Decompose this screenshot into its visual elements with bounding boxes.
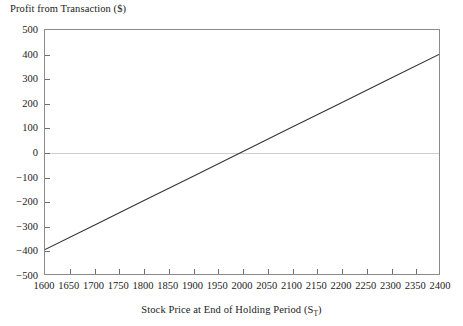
profit-line-series <box>45 30 439 274</box>
y-axis-tick-label: 0 <box>4 147 38 158</box>
y-axis-tick-label: −300 <box>4 220 38 231</box>
y-axis-tick-label: 200 <box>4 97 38 108</box>
x-axis-tick <box>293 269 294 274</box>
x-axis-tick <box>392 269 393 274</box>
y-axis-tick <box>45 79 50 80</box>
y-axis-tick-label: 500 <box>4 24 38 35</box>
x-axis-tick <box>268 269 269 274</box>
y-axis-tick-label: −400 <box>4 245 38 256</box>
x-axis-tick <box>218 269 219 274</box>
y-axis-tick <box>45 55 50 56</box>
y-axis-tick-label: 300 <box>4 73 38 84</box>
x-axis-tick <box>144 269 145 274</box>
y-axis-tick <box>45 128 50 129</box>
y-axis-tick <box>45 178 50 179</box>
y-axis-tick <box>45 153 50 154</box>
y-axis-tick-label: 400 <box>4 48 38 59</box>
plot-inner <box>45 30 439 274</box>
x-axis-tick <box>317 269 318 274</box>
plot-area <box>44 29 440 275</box>
x-axis-tick <box>194 269 195 274</box>
y-axis-tick <box>45 104 50 105</box>
y-axis-tick <box>45 202 50 203</box>
y-axis-tick-label: −500 <box>4 270 38 281</box>
y-axis-tick <box>45 251 50 252</box>
x-axis-tick <box>367 269 368 274</box>
x-axis-tick <box>243 269 244 274</box>
y-axis-tick <box>45 227 50 228</box>
x-axis-tick <box>416 269 417 274</box>
y-axis-tick-label: 100 <box>4 122 38 133</box>
x-axis-tick <box>95 269 96 274</box>
x-axis-title-prefix: Stock Price at End of Holding Period (S <box>141 304 313 315</box>
y-axis-tick-label: −200 <box>4 196 38 207</box>
y-axis-tick-label: −100 <box>4 171 38 182</box>
profit-diagram-figure: Profit from Transaction ($) Stock Price … <box>0 0 463 326</box>
x-axis-title: Stock Price at End of Holding Period (ST… <box>0 304 463 318</box>
x-axis-tick <box>119 269 120 274</box>
x-axis-tick-label: 2400 <box>420 280 460 291</box>
x-axis-tick <box>169 269 170 274</box>
x-axis-tick <box>70 269 71 274</box>
x-axis-title-suffix: ) <box>318 304 322 315</box>
x-axis-tick <box>342 269 343 274</box>
y-axis-title: Profit from Transaction ($) <box>10 3 126 14</box>
